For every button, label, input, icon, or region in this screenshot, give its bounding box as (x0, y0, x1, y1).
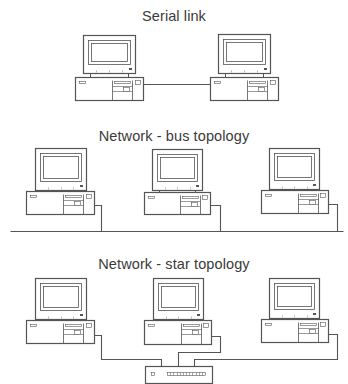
system-unit-icon (27, 321, 95, 344)
monitor-icon (84, 36, 136, 78)
computer-2 (145, 279, 212, 345)
serial-link-diagram (76, 35, 279, 101)
system-unit-icon (211, 78, 279, 101)
network-hub-icon (146, 367, 213, 384)
system-unit-icon (262, 191, 329, 214)
computer-2 (211, 35, 279, 101)
cable-2 (95, 206, 102, 232)
system-unit-icon (27, 192, 95, 215)
system-unit-icon (76, 78, 144, 101)
network-diagram (0, 0, 348, 384)
monitor-icon (36, 279, 87, 321)
monitor-icon (270, 279, 320, 320)
computer-1 (76, 36, 144, 101)
computer-1 (27, 279, 95, 344)
monitor-icon (153, 150, 203, 193)
system-unit-icon (145, 321, 212, 345)
computer-1 (27, 149, 95, 215)
computer-3 (262, 279, 329, 343)
system-unit-icon (262, 320, 329, 343)
computer-3 (262, 149, 329, 214)
monitor-icon (270, 149, 320, 191)
monitor-icon (36, 149, 87, 192)
bus-topology-diagram (11, 149, 344, 232)
monitor-icon (219, 35, 271, 78)
computer-2 (145, 150, 211, 215)
cable-4 (329, 205, 338, 232)
star-topology-diagram (27, 279, 338, 384)
cable-3 (211, 206, 221, 232)
system-unit-icon (145, 193, 211, 215)
monitor-icon (154, 279, 204, 321)
